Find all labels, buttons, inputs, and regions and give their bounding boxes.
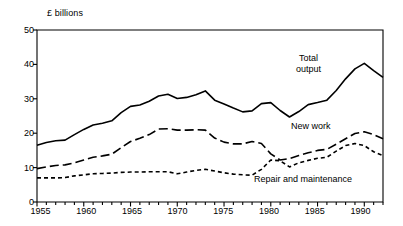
plot-area [0,0,403,226]
series-line-total-output [37,63,383,145]
series-line-repair-and-maintenance [37,144,383,178]
plot-frame [37,30,383,202]
line-chart: £ billions 50 40 30 20 10 0 1955 1960 19… [0,0,403,226]
series-line-new-work [37,129,383,169]
